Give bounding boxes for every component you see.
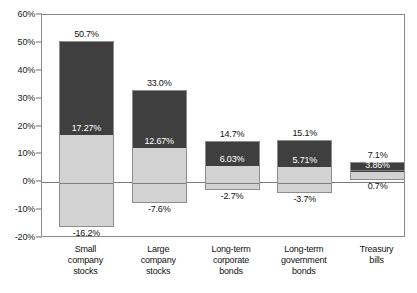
bar-max-label: 33.0% [147, 78, 172, 88]
category-label-line: company [141, 255, 176, 266]
bar-average-label: 17.27% [72, 123, 101, 133]
bar-min-label: -3.7% [294, 194, 317, 204]
y-axis-tick-label: 0% [22, 176, 35, 186]
category-label-line: stocks [68, 266, 103, 277]
bar-average-label: 12.67% [145, 136, 174, 146]
category-label-line: bonds [211, 266, 250, 277]
category-label-line: Long-term [211, 244, 250, 255]
bar-average-label: 3.86% [365, 160, 390, 170]
bar-range[interactable] [59, 41, 114, 227]
bar-zero-divider [278, 183, 331, 184]
category-label-line: government [281, 255, 327, 266]
bar-zero-divider [60, 183, 113, 184]
category-label-line: Small [68, 244, 103, 255]
bar-range[interactable] [205, 141, 260, 190]
category-label-line: Treasury [360, 244, 394, 255]
bar-zero-divider [133, 183, 186, 184]
y-axis-tick-label: -20% [15, 232, 35, 242]
y-axis-tick-label: -10% [15, 204, 35, 214]
bar-zero-divider [206, 183, 259, 184]
category-label-line: bills [360, 255, 394, 266]
bar-range[interactable] [132, 90, 187, 203]
bar-max-label: 14.7% [220, 129, 245, 139]
y-axis-tick-label: 10% [18, 148, 35, 158]
x-axis-category-label: Long-termgovernmentbonds [281, 244, 327, 277]
category-label-line: bonds [281, 266, 327, 277]
bar-range[interactable] [277, 140, 332, 192]
bar-max-label: 7.1% [368, 150, 388, 160]
x-axis-category-label: Treasurybills [360, 244, 394, 266]
category-label-line: corporate [211, 255, 250, 266]
bar-segment-above-average[interactable] [60, 42, 113, 135]
y-axis-tick-label: 30% [18, 93, 35, 103]
y-axis-tick-label: 20% [18, 121, 35, 131]
bar-min-label: -16.2% [73, 228, 100, 238]
y-axis: 60%50%40%30%20%10%0%-10%-20% [0, 0, 41, 293]
x-axis-category-label: Largecompanystocks [141, 244, 176, 277]
category-label-line: stocks [141, 266, 176, 277]
category-label-line: Large [141, 244, 176, 255]
bar-average-label: 5.71% [293, 155, 318, 165]
bar-average-label: 6.03% [220, 154, 245, 164]
bar-min-label: 0.7% [368, 181, 388, 191]
y-axis-tick-label: 60% [18, 9, 35, 19]
bar-min-label: -2.7% [221, 191, 244, 201]
y-axis-tick-label: 50% [18, 37, 35, 47]
bar-max-label: 15.1% [293, 128, 318, 138]
y-axis-tick-label: 40% [18, 65, 35, 75]
x-axis-category-label: Long-termcorporatebonds [211, 244, 250, 277]
category-label-line: Long-term [281, 244, 327, 255]
chart-root: 60%50%40%30%20%10%0%-10%-20% 50.7%17.27%… [0, 0, 417, 293]
chart-title-sliver [0, 0, 417, 4]
x-axis-category-label: Smallcompanystocks [68, 244, 103, 277]
plot-area: 50.7%17.27%-16.2%33.0%12.67%-7.6%14.7%6.… [41, 14, 405, 237]
category-label-line: company [68, 255, 103, 266]
bar-min-label: -7.6% [148, 204, 171, 214]
bar-max-label: 50.7% [74, 29, 99, 39]
